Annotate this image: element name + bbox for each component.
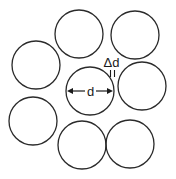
circle-bottom-right <box>106 120 154 168</box>
circle-top-right <box>111 11 159 59</box>
circle-left-upper <box>12 41 60 89</box>
circle-left-lower <box>9 97 57 145</box>
arrow-left-head-icon <box>67 88 73 94</box>
circle-bottom-middle <box>58 121 106 169</box>
diameter-arrow: d <box>67 84 113 99</box>
circle-right-middle <box>118 62 166 110</box>
arrow-right-head-icon <box>107 88 113 94</box>
circle-top-middle <box>55 10 103 58</box>
circle-packing-diagram: d Δd <box>0 0 176 179</box>
gap-label: Δd <box>104 55 120 70</box>
diameter-label: d <box>87 84 94 99</box>
